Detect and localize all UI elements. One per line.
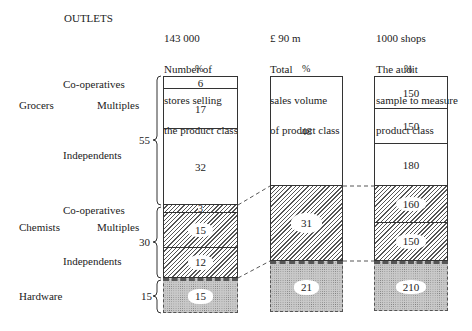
sales-chemists: 31 — [270, 186, 343, 261]
value: 150 — [403, 120, 420, 132]
sales-column: 48 31 21 — [270, 76, 343, 312]
stores-grocers-coop: 6 — [163, 76, 238, 89]
stores-column: 6 17 32 3 15 12 15 — [163, 76, 238, 313]
value: 17 — [195, 103, 206, 115]
value: 12 — [188, 255, 213, 269]
chemists-brace-icon — [153, 207, 161, 278]
hardware-brace-icon — [153, 280, 161, 313]
audit-chemists-coop: 160 — [374, 186, 448, 223]
value: 180 — [403, 159, 420, 171]
connector-grocers-chemists — [238, 186, 270, 205]
connector-chemists-hardware — [238, 261, 270, 278]
value: 160 — [396, 197, 427, 211]
value: 32 — [195, 161, 206, 173]
value: 3 — [198, 205, 203, 212]
sales-hardware: 21 — [270, 261, 343, 312]
audit-grocers-coop: 150 — [374, 76, 448, 109]
audit-chemists-multiples: 150 — [374, 223, 448, 261]
audit-grocers-multiples: 150 — [374, 109, 448, 144]
audit-grocers-independents: 180 — [374, 144, 448, 186]
value: 21 — [294, 280, 319, 294]
audit-column: 150 150 180 160 150 210 — [374, 76, 448, 311]
value: 15 — [188, 223, 213, 237]
value: 15 — [188, 289, 213, 303]
stores-grocers-independents: 32 — [163, 129, 238, 205]
value: 6 — [198, 77, 204, 89]
value: 150 — [403, 87, 420, 99]
value: 31 — [291, 213, 322, 233]
value: 210 — [396, 280, 427, 294]
stores-hardware: 15 — [163, 278, 238, 313]
stores-chemists-multiples: 15 — [163, 213, 238, 248]
sales-grocers: 48 — [270, 76, 343, 186]
value: 48 — [301, 125, 312, 137]
value: 150 — [396, 234, 427, 248]
stores-chemists-coop: 3 — [163, 205, 238, 213]
grocers-brace-icon — [153, 76, 161, 205]
audit-hardware: 210 — [374, 261, 448, 311]
stores-grocers-multiples: 17 — [163, 89, 238, 129]
stores-chemists-independents: 12 — [163, 248, 238, 278]
